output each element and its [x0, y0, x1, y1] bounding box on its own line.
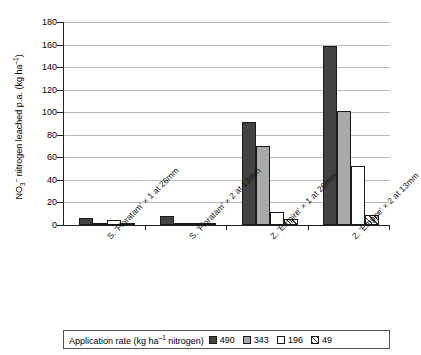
bar — [323, 46, 337, 225]
bar — [79, 218, 93, 225]
y-axis-tick-label: 160 — [17, 41, 57, 50]
legend-title-prefix: Application rate (kg ha — [69, 336, 159, 346]
bar — [160, 216, 174, 225]
y-axis-tick-label: 100 — [17, 108, 57, 117]
gridline — [64, 22, 390, 23]
legend-title-exponent: –1 — [159, 334, 166, 341]
gridline — [64, 90, 390, 91]
legend-title: Application rate (kg ha–1 nitrogen) — [69, 334, 204, 346]
legend-label: 490 — [220, 335, 235, 345]
y-axis-tick-label: 120 — [17, 86, 57, 95]
legend: Application rate (kg ha–1 nitrogen) 4903… — [63, 330, 390, 349]
y-axis-tick-label: 20 — [17, 198, 57, 207]
category-separator — [389, 225, 390, 230]
category-separator — [226, 225, 227, 230]
legend-item[interactable]: 196 — [277, 335, 303, 345]
legend-item[interactable]: 49 — [311, 335, 332, 345]
legend-item[interactable]: 490 — [209, 335, 235, 345]
bar — [337, 111, 351, 225]
legend-label: 49 — [322, 335, 332, 345]
y-axis-tick-label: 140 — [17, 63, 57, 72]
legend-title-suffix: nitrogen) — [166, 336, 204, 346]
legend-label: 196 — [288, 335, 303, 345]
legend-swatch — [243, 336, 251, 344]
legend-items: 49034319649 — [209, 335, 340, 345]
gridline — [64, 67, 390, 68]
y-axis-tick-label: 80 — [17, 131, 57, 140]
legend-swatch — [209, 336, 217, 344]
y-axis-tick-label: 60 — [17, 153, 57, 162]
legend-swatch — [277, 336, 285, 344]
y-axis-title-suffix: ) — [14, 54, 24, 57]
category-separator — [145, 225, 146, 230]
gridline — [64, 45, 390, 46]
y-axis-title-prefix: NO — [14, 186, 24, 200]
bar — [351, 166, 365, 225]
legend-item[interactable]: 343 — [243, 335, 269, 345]
legend-swatch — [311, 336, 319, 344]
bar — [256, 146, 270, 225]
category-separator — [308, 225, 309, 230]
y-axis-tick-label: 40 — [17, 176, 57, 185]
y-axis-tick-label: 180 — [17, 18, 57, 27]
y-axis-tick-label: 0 — [17, 221, 57, 230]
legend-label: 343 — [254, 335, 269, 345]
